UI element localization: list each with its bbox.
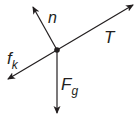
free-body-diagram: n T fk Fg xyxy=(0,0,139,119)
gravity-subscript: g xyxy=(71,84,78,98)
center-point xyxy=(54,47,60,53)
kinetic-friction-subscript: k xyxy=(12,58,19,72)
normal-force-label: n xyxy=(48,9,57,26)
tension-label: T xyxy=(104,28,116,47)
tension-arrow xyxy=(57,5,133,50)
kinetic-friction-label: fk xyxy=(7,49,19,72)
gravity-label: Fg xyxy=(61,75,78,98)
